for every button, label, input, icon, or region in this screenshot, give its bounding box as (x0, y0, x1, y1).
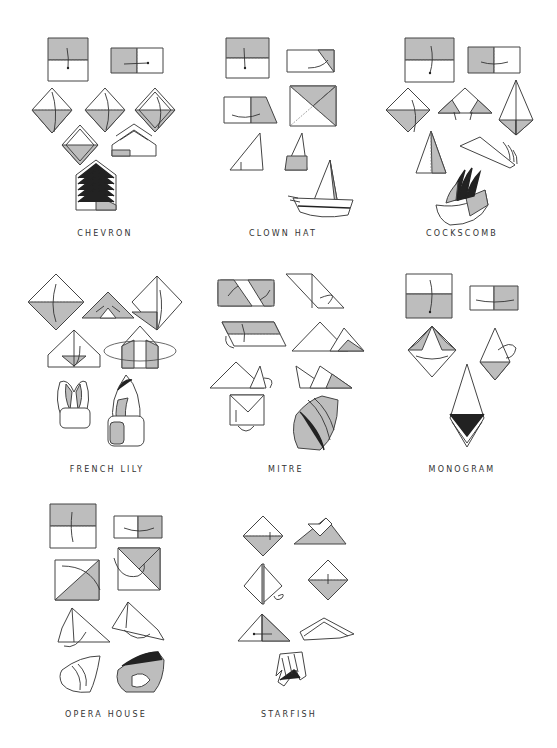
mitre-diagram (190, 250, 375, 480)
fold-opera-house: OPERA HOUSE (0, 480, 200, 748)
fold-chevron: CHEVRON (0, 0, 190, 250)
monogram-diagram (370, 250, 557, 480)
fold-mitre: MITRE (190, 250, 375, 480)
fold-label-mitre: MITRE (268, 465, 304, 474)
fold-label-clown-hat: CLOWN HAT (249, 229, 317, 238)
fold-label-french-lily: FRENCH LILY (70, 465, 145, 474)
cockscomb-diagram (370, 0, 557, 250)
chevron-diagram (0, 0, 190, 250)
opera-house-diagram (0, 480, 200, 748)
clown-hat-diagram (190, 0, 375, 250)
fold-clown-hat: CLOWN HAT (190, 0, 375, 250)
fold-label-starfish: STARFISH (261, 710, 317, 719)
french-lily-diagram (0, 250, 190, 480)
starfish-diagram (200, 480, 380, 748)
fold-label-chevron: CHEVRON (77, 229, 132, 238)
fold-monogram: MONOGRAM (370, 250, 557, 480)
fold-french-lily: FRENCH LILY (0, 250, 190, 480)
fold-cockscomb: COCKSCOMB (370, 0, 557, 250)
fold-starfish: STARFISH (200, 480, 380, 748)
fold-label-monogram: MONOGRAM (429, 465, 496, 474)
fold-label-opera-house: OPERA HOUSE (65, 710, 147, 719)
fold-label-cockscomb: COCKSCOMB (426, 229, 498, 238)
